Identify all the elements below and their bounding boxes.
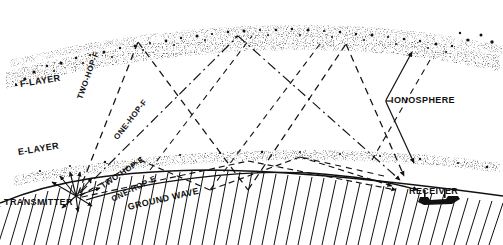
ionosphere-bracket-pointer-icon <box>386 52 414 163</box>
propagation-diagram: F-LAYER E-LAYER IONOSPHERE TRANSMITTER R… <box>0 0 503 245</box>
receiver-label: RECEIVER <box>409 187 458 196</box>
f-layer-band <box>6 25 502 89</box>
earth-hatching <box>0 171 503 245</box>
transmitter-label: TRANSMITTER <box>4 198 73 207</box>
e-layer-band <box>14 150 500 186</box>
ray-secondary-paths <box>150 36 430 190</box>
diagram-canvas <box>0 0 503 245</box>
ionosphere-label: IONOSPHERE <box>391 96 455 105</box>
earth-surface <box>0 170 503 245</box>
